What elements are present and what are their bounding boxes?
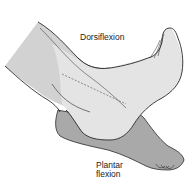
dorsiflexion-label: Dorsiflexion <box>80 33 124 42</box>
ankle-illustration <box>0 0 194 185</box>
plantar-flexion-label-line2: flexion <box>96 170 123 179</box>
plantar-flexion-label: Plantar flexion <box>96 161 123 179</box>
ankle-motion-diagram: Dorsiflexion Plantar flexion <box>0 0 194 185</box>
